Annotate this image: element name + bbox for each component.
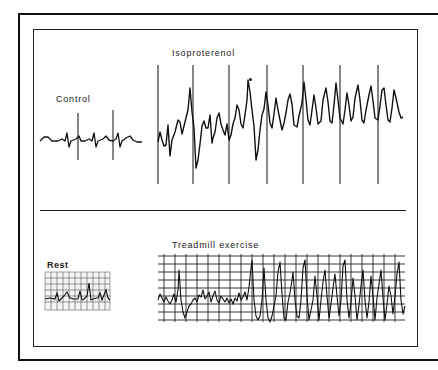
treadmill-trace (158, 260, 405, 322)
rest-grid (45, 272, 110, 310)
isoproterenol-trace (158, 65, 403, 184)
control-trace (40, 110, 142, 160)
